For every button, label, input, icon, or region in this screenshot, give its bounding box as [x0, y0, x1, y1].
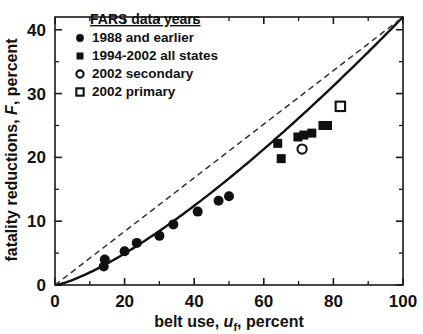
- data-point: [132, 238, 142, 248]
- y-tick-label: 30: [27, 85, 46, 104]
- legend-entry-label: 1988 and earlier: [92, 30, 195, 45]
- x-tick-label: 60: [254, 292, 273, 311]
- series-2002-secondary: [297, 144, 306, 153]
- x-title-pre: belt use,: [154, 313, 223, 330]
- y-tick-label: 10: [27, 212, 46, 231]
- data-point: [154, 231, 164, 241]
- chart-figure: 020406080100 010203040 FARS data years19…: [0, 0, 423, 334]
- x-tick-label: 80: [324, 292, 343, 311]
- legend-marker-filled-square: [76, 52, 83, 59]
- data-point: [307, 129, 316, 138]
- scatter-plot: 020406080100 010203040 FARS data years19…: [0, 0, 423, 334]
- legend-entry-label: 2002 primary: [92, 84, 176, 99]
- x-title-symbol: u: [224, 313, 234, 330]
- series-2002-primary: [336, 102, 345, 111]
- legend-marker-open-square: [76, 88, 83, 95]
- data-point: [214, 196, 224, 206]
- y-tick-label: 20: [27, 148, 46, 167]
- x-tick-label: 0: [50, 292, 59, 311]
- y-title-pre: fatality reductions,: [3, 115, 20, 262]
- x-tick-label: 20: [115, 292, 134, 311]
- data-point: [193, 207, 203, 217]
- data-point: [273, 139, 282, 148]
- data-point: [297, 144, 306, 153]
- data-point: [120, 246, 130, 256]
- data-point: [100, 254, 110, 264]
- data-point: [299, 131, 308, 140]
- legend-entry-label: 1994-2002 all states: [92, 48, 218, 63]
- legend-marker-filled-circle: [76, 34, 84, 42]
- data-point: [277, 154, 286, 163]
- data-point: [224, 191, 234, 201]
- y-title-post: , percent: [3, 38, 20, 105]
- y-tick-label: 40: [27, 21, 46, 40]
- x-tick-label: 100: [389, 292, 417, 311]
- legend-title: FARS data years: [90, 11, 201, 27]
- data-point: [323, 121, 332, 130]
- data-point: [168, 219, 178, 229]
- y-axis-title: fatality reductions, F, percent: [3, 38, 20, 262]
- legend-marker-open-circle: [76, 70, 83, 77]
- y-tick-label: 0: [37, 276, 46, 295]
- y-axis-title-group: fatality reductions, F, percent: [3, 38, 20, 262]
- x-tick-label: 40: [185, 292, 204, 311]
- x-title-post: , percent: [237, 313, 304, 330]
- legend-entry-label: 2002 secondary: [92, 66, 194, 81]
- data-point: [336, 102, 345, 111]
